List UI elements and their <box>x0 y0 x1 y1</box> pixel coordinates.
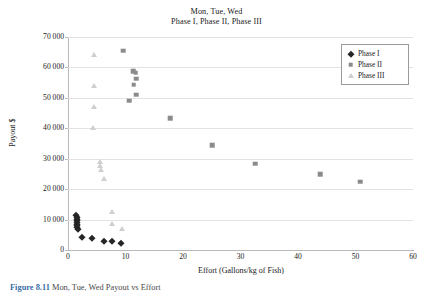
y-tick-mark <box>65 189 68 190</box>
data-point-phase-i <box>74 224 80 230</box>
data-point-phase-ii <box>134 71 139 76</box>
square-icon <box>346 60 355 69</box>
x-tick-label: 10 <box>111 253 141 261</box>
chart-title-line-1: Mon, Tue, Wed <box>0 7 433 17</box>
data-point-phase-ii <box>168 116 173 121</box>
triangle-icon <box>346 71 355 80</box>
legend-label: Phase II <box>358 60 382 69</box>
x-axis-line <box>68 250 414 251</box>
y-tick-label: 20 000 <box>0 185 64 193</box>
data-point-phase-iii <box>91 52 97 57</box>
figure-caption: Figure 8.11 Mon, Tue, Wed Payout vs Effo… <box>10 283 430 292</box>
y-tick-label: 70 000 <box>0 33 64 41</box>
y-tick-label: 10 000 <box>0 216 64 224</box>
data-point-phase-i <box>101 237 107 243</box>
data-point-phase-iii <box>101 176 107 181</box>
data-point-phase-i <box>74 220 80 226</box>
data-point-phase-ii <box>134 76 139 81</box>
legend-item-phase-iii[interactable]: Phase III <box>346 70 404 81</box>
y-tick-mark <box>65 98 68 99</box>
x-tick-label: 30 <box>226 253 256 261</box>
data-point-phase-i <box>79 233 85 239</box>
data-point-phase-ii <box>358 180 363 185</box>
data-point-phase-ii <box>121 48 126 53</box>
figure-caption-text: Mon, Tue, Wed Payout vs Effort <box>52 283 161 292</box>
data-point-phase-iii <box>91 83 97 88</box>
x-tick-label: 40 <box>283 253 313 261</box>
data-point-phase-i <box>108 238 114 244</box>
chart-title-line-2: Phase I, Phase II, Phase III <box>0 17 433 27</box>
x-tick-label: 60 <box>398 253 428 261</box>
gridline-y <box>68 128 413 129</box>
y-tick-mark <box>65 250 68 251</box>
figure-caption-number: Figure 8.11 <box>10 283 50 292</box>
data-point-phase-ii <box>134 92 139 97</box>
gridline-y <box>68 37 413 38</box>
x-tick-label: 50 <box>341 253 371 261</box>
y-tick-mark <box>65 37 68 38</box>
legend-label: Phase III <box>358 71 384 80</box>
data-point-phase-ii <box>131 82 136 87</box>
gridline-y <box>68 189 413 190</box>
data-point-phase-iii <box>97 163 103 168</box>
data-point-phase-ii <box>210 143 215 148</box>
legend-item-phase-i[interactable]: Phase I <box>346 48 404 59</box>
figure-root: Mon, Tue, Wed Phase I, Phase II, Phase I… <box>0 0 433 292</box>
data-point-phase-iii <box>98 167 104 172</box>
data-point-phase-iii <box>91 104 97 109</box>
data-point-phase-iii <box>97 159 103 164</box>
data-point-phase-iii <box>109 209 115 214</box>
x-tick-label: 0 <box>53 253 83 261</box>
y-tick-mark <box>65 159 68 160</box>
data-point-phase-ii <box>127 99 132 104</box>
legend-label: Phase I <box>358 49 380 58</box>
diamond-icon <box>346 49 355 58</box>
y-tick-mark <box>65 67 68 68</box>
chart-legend: Phase IPhase IIPhase III <box>341 44 409 85</box>
data-point-phase-i <box>73 222 79 228</box>
y-tick-mark <box>65 128 68 129</box>
data-point-phase-i <box>89 235 95 241</box>
y-tick-mark <box>65 220 68 221</box>
data-point-phase-ii <box>253 162 258 167</box>
legend-item-phase-ii[interactable]: Phase II <box>346 59 404 70</box>
data-point-phase-iii <box>109 221 115 226</box>
data-point-phase-i <box>118 240 124 246</box>
y-tick-label: 60 000 <box>0 63 64 71</box>
gridline-y <box>68 159 413 160</box>
x-axis-title: Effort (Gallons/kg of Fish) <box>68 266 414 275</box>
y-axis-title: Payout $ <box>8 85 17 181</box>
data-point-phase-i <box>75 226 81 232</box>
data-point-phase-ii <box>318 172 323 177</box>
gridline-y <box>68 98 413 99</box>
data-point-phase-iii <box>119 226 125 231</box>
data-point-phase-i <box>73 212 79 218</box>
data-point-phase-ii <box>131 69 136 74</box>
gridline-y <box>68 220 413 221</box>
x-tick-label: 20 <box>168 253 198 261</box>
